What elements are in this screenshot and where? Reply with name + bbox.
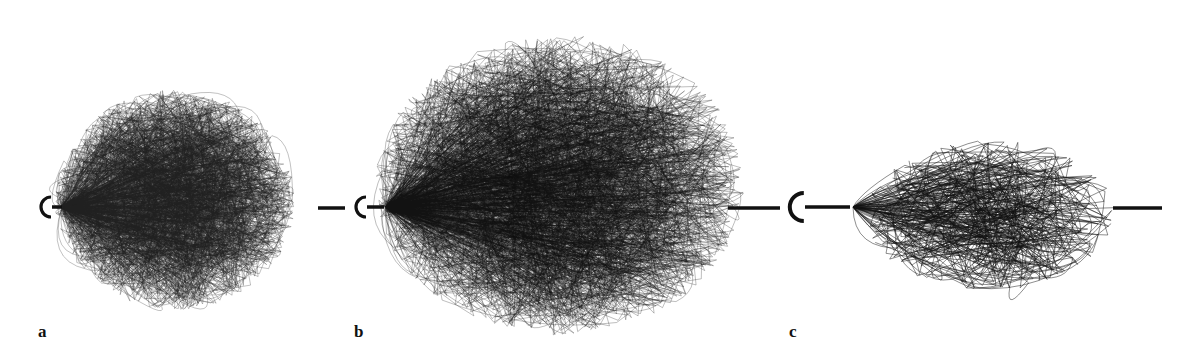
trajectory-tangle <box>373 37 743 335</box>
trajectory-tangle <box>853 141 1114 300</box>
panel-label-b: b <box>354 322 363 342</box>
entrance-c-icon <box>356 197 366 217</box>
trajectory-tangle <box>49 90 294 310</box>
panel-c <box>790 141 1162 300</box>
panel-a <box>41 90 345 310</box>
panel-label-c: c <box>789 322 797 342</box>
trajectory-figure <box>0 0 1194 354</box>
entrance-c-icon <box>41 197 51 217</box>
panel-label-a: a <box>38 322 47 342</box>
entrance-c-icon <box>790 193 804 221</box>
panel-b <box>356 37 780 335</box>
